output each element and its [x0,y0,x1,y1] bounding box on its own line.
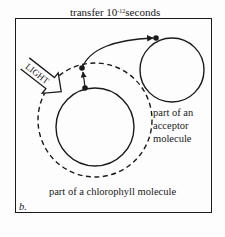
transfer-time-label: transfer 10-12seconds [70,6,160,18]
excitation-arrow [83,72,85,87]
electron-excited-dot [79,65,85,71]
acceptor-molecule-label: part of an acceptor molecule [153,106,193,145]
light-arrow-icon: LIGHT [17,53,69,102]
chlorophyll-molecule-label: part of a chlorophyll molecule [0,186,225,198]
electron-acceptor-dot [153,35,159,41]
panel-label: b. [19,201,27,213]
electron-ground-dot [82,85,88,91]
chlorophyll-inner-orbit [56,88,134,166]
acceptor-orbit [140,38,204,102]
